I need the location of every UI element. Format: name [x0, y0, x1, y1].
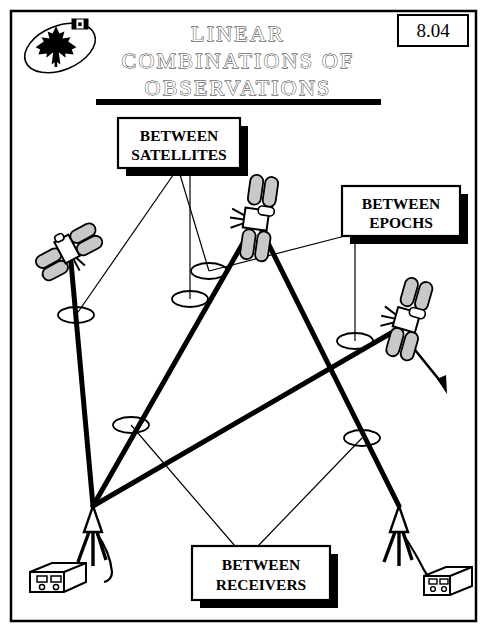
title-underline [96, 99, 381, 105]
title-line-1: LINEAR [191, 21, 285, 46]
flag-leaf-mark [78, 22, 81, 26]
callout-between-epochs[interactable]: BETWEEN EPOCHS [342, 186, 468, 244]
receiver-knob-b [53, 584, 58, 589]
flag-bar-right [84, 19, 88, 29]
receiver-display-b [51, 576, 61, 582]
title-line-2: COMBINATIONS OF [122, 48, 355, 73]
flag-bar-left [72, 19, 76, 29]
receiver-display-a [37, 576, 47, 582]
receiver-knob-b [442, 587, 447, 592]
receiver-knob-a [431, 587, 436, 592]
title-line-3: OBSERVATIONS [145, 75, 332, 100]
callout-line-1: BETWEEN [362, 195, 440, 212]
receiver-display-a [429, 579, 437, 584]
receiver-display-b [440, 579, 448, 584]
satellite-module [258, 205, 275, 216]
callout-between-receivers[interactable]: BETWEEN RECEIVERS [192, 546, 338, 608]
callout-between-satellites[interactable]: BETWEEN SATELLITES [118, 118, 248, 176]
page-number-label: 8.04 [416, 20, 450, 41]
page-number-box: 8.04 [398, 15, 468, 46]
canada-flag-icon [72, 19, 88, 29]
callout-line-2: EPOCHS [369, 214, 433, 231]
receiver-knob-a [39, 584, 44, 589]
callout-line-1: BETWEEN [222, 556, 300, 573]
maple-leaf-stem [55, 54, 58, 67]
callout-line-2: RECEIVERS [216, 576, 306, 593]
callout-line-1: BETWEEN [140, 127, 218, 144]
callout-line-2: SATELLITES [131, 146, 226, 163]
page-root: LINEAR COMBINATIONS OF OBSERVATIONS 8.04 [0, 0, 487, 632]
diagram-canvas: LINEAR COMBINATIONS OF OBSERVATIONS 8.04 [0, 0, 487, 632]
